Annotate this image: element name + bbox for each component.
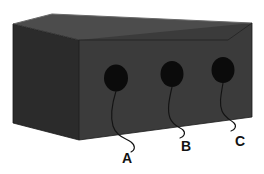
figure-container: A B C: [0, 0, 264, 174]
hole-b: [161, 61, 184, 87]
callout-label-group: A B C: [122, 133, 245, 166]
block-left-face: [13, 24, 79, 140]
hole-a: [104, 65, 128, 92]
callout-label-b: B: [181, 138, 191, 154]
callout-label-a: A: [122, 150, 132, 166]
hole-c: [212, 57, 235, 83]
callout-label-c: C: [235, 133, 245, 149]
block-diagram: A B C: [0, 0, 264, 174]
